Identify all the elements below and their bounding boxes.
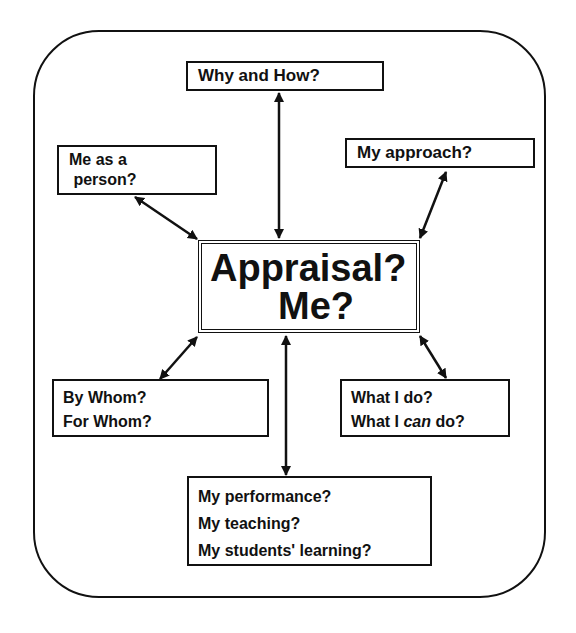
node-text: My performance? [198, 483, 430, 510]
node-text: My approach? [357, 143, 533, 163]
node-text: Me as a [69, 150, 215, 170]
node-text: Why and How? [198, 66, 382, 86]
node-what-i-do: What I do? What I can do? [340, 379, 510, 437]
center-title: Appraisal? [210, 249, 416, 287]
node-my-approach: My approach? [345, 138, 535, 168]
text-emphasis: can [403, 413, 431, 430]
node-text: For Whom? [63, 410, 267, 434]
node-me-as-a-person: Me as a person? [57, 145, 217, 195]
node-text: What I can do? [351, 410, 508, 434]
arrow-center-whom [160, 337, 197, 379]
arrow-center-approach [420, 172, 446, 238]
node-text: By Whom? [63, 386, 267, 410]
node-text: person? [69, 170, 215, 190]
center-subtitle: Me? [210, 287, 416, 325]
node-text: What I do? [351, 386, 508, 410]
arrow-center-person [135, 197, 197, 239]
arrow-center-do [420, 336, 446, 378]
text-prefix: What I [351, 413, 403, 430]
node-my-performance: My performance? My teaching? My students… [187, 476, 432, 566]
node-center-appraisal: Appraisal? Me? [198, 240, 420, 333]
node-by-for-whom: By Whom? For Whom? [52, 379, 269, 437]
diagram-canvas: Why and How? Me as a person? My approach… [0, 0, 576, 633]
text-suffix: do? [431, 413, 465, 430]
node-why-and-how: Why and How? [186, 61, 384, 91]
node-text: My students' learning? [198, 537, 430, 564]
node-text: My teaching? [198, 510, 430, 537]
